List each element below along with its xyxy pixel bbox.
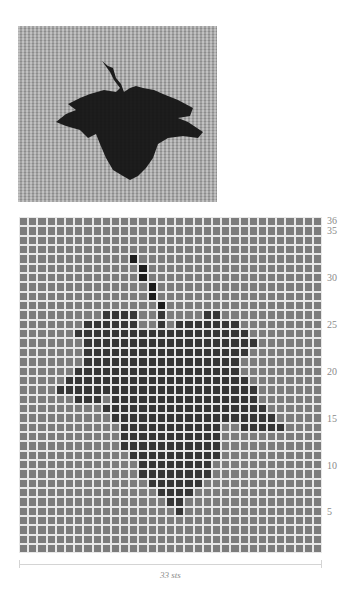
chart-cell — [157, 301, 166, 310]
chart-cell — [313, 338, 322, 347]
chart-cell — [267, 338, 276, 347]
chart-cell — [304, 497, 313, 506]
chart-cell — [295, 423, 304, 432]
chart-cell — [221, 432, 230, 441]
chart-cell — [203, 385, 212, 394]
chart-cell — [74, 497, 83, 506]
chart-cell — [19, 236, 28, 245]
chart-cell — [111, 367, 120, 376]
chart-cell — [129, 357, 138, 366]
chart-cell — [285, 245, 294, 254]
chart-cell — [285, 432, 294, 441]
chart-cell — [111, 544, 120, 553]
chart-cell — [28, 497, 37, 506]
chart-cell — [240, 264, 249, 273]
chart-cell — [313, 245, 322, 254]
chart-cell — [166, 236, 175, 245]
chart-cell — [93, 544, 102, 553]
chart-cell — [157, 451, 166, 460]
chart-cell — [47, 479, 56, 488]
chart-cell — [240, 441, 249, 450]
chart-cell — [47, 329, 56, 338]
chart-cell — [230, 226, 239, 235]
chart-cell — [240, 497, 249, 506]
chart-cell — [129, 217, 138, 226]
chart-cell — [230, 273, 239, 282]
chart-cell — [120, 525, 129, 534]
chart-cell — [295, 544, 304, 553]
chart-cell — [111, 441, 120, 450]
chart-cell — [47, 395, 56, 404]
chart-cell — [249, 451, 258, 460]
chart-cell — [83, 301, 92, 310]
chart-cell — [93, 376, 102, 385]
chart-cell — [184, 320, 193, 329]
chart-cell — [194, 460, 203, 469]
chart-cell — [19, 479, 28, 488]
chart-cell — [221, 413, 230, 422]
chart-cell — [194, 395, 203, 404]
chart-cell — [276, 301, 285, 310]
chart-cell — [175, 479, 184, 488]
chart-cell — [203, 423, 212, 432]
chart-cell — [267, 385, 276, 394]
chart-cell — [83, 236, 92, 245]
chart-cell — [102, 357, 111, 366]
chart-cell — [230, 404, 239, 413]
chart-cell — [276, 245, 285, 254]
chart-cell — [313, 507, 322, 516]
chart-cell — [285, 497, 294, 506]
chart-cell — [166, 264, 175, 273]
chart-cell — [28, 282, 37, 291]
chart-cell — [93, 338, 102, 347]
chart-cell — [129, 338, 138, 347]
chart-cell — [267, 301, 276, 310]
chart-cell — [285, 544, 294, 553]
chart-cell — [240, 236, 249, 245]
chart-cell — [56, 497, 65, 506]
chart-cell — [37, 385, 46, 394]
chart-cell — [221, 338, 230, 347]
chart-cell — [221, 441, 230, 450]
chart-cell — [111, 395, 120, 404]
chart-cell — [285, 516, 294, 525]
chart-cell — [56, 245, 65, 254]
chart-cell — [166, 245, 175, 254]
chart-cell — [285, 385, 294, 394]
chart-cell — [37, 301, 46, 310]
chart-cell — [166, 525, 175, 534]
chart-cell — [184, 404, 193, 413]
chart-cell — [138, 357, 147, 366]
chart-cell — [175, 535, 184, 544]
chart-cell — [28, 460, 37, 469]
chart-cell — [65, 357, 74, 366]
chart-cell — [212, 264, 221, 273]
chart-cell — [304, 226, 313, 235]
chart-cell — [56, 385, 65, 394]
chart-cell — [28, 338, 37, 347]
chart-cell — [28, 451, 37, 460]
chart-cell — [203, 310, 212, 319]
chart-cell — [304, 245, 313, 254]
chart-cell — [74, 469, 83, 478]
chart-cell — [138, 236, 147, 245]
chart-cell — [304, 282, 313, 291]
chart-cell — [120, 310, 129, 319]
chart-cell — [258, 525, 267, 534]
chart-cell — [120, 479, 129, 488]
chart-cell — [102, 273, 111, 282]
chart-cell — [102, 264, 111, 273]
chart-cell — [37, 217, 46, 226]
chart-cell — [166, 292, 175, 301]
chart-cell — [295, 413, 304, 422]
chart-cell — [230, 385, 239, 394]
chart-cell — [120, 357, 129, 366]
chart-cell — [138, 310, 147, 319]
chart-cell — [120, 273, 129, 282]
chart-cell — [267, 245, 276, 254]
chart-cell — [111, 451, 120, 460]
chart-cell — [258, 385, 267, 394]
chart-cell — [47, 488, 56, 497]
chart-cell — [295, 395, 304, 404]
chart-cell — [285, 236, 294, 245]
